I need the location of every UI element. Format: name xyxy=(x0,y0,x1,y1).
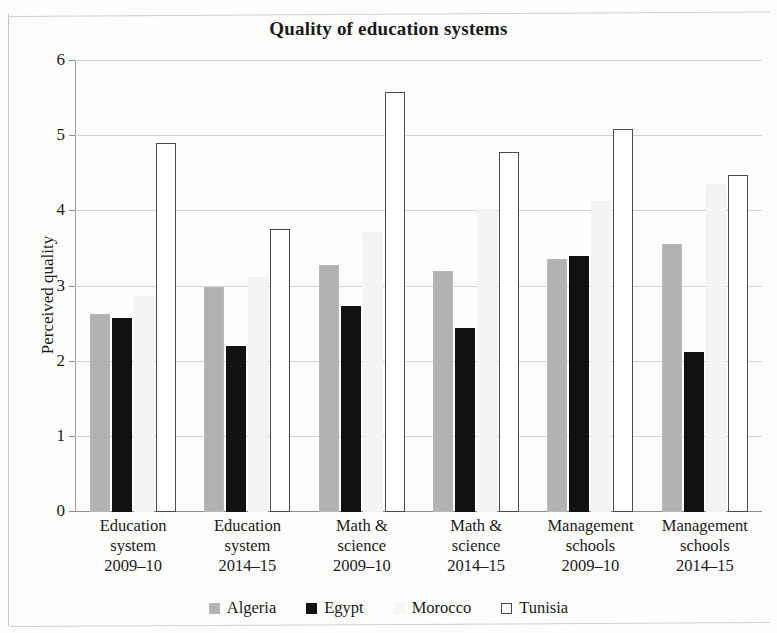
bar-algeria[interactable] xyxy=(90,314,110,512)
y-tick-label: 5 xyxy=(41,126,65,143)
y-tick-label: 4 xyxy=(41,201,65,218)
plot-area: 6543210 xyxy=(75,60,762,511)
legend-label: Morocco xyxy=(412,598,472,618)
x-category-label: Managementschools2009–10 xyxy=(533,516,647,576)
y-tick-1 xyxy=(69,436,75,437)
bar-group xyxy=(419,60,533,512)
x-category-label-line: schools xyxy=(533,536,647,556)
x-category-label-line: 2014–15 xyxy=(190,556,304,576)
y-tick-label: 6 xyxy=(41,51,65,68)
bar-morocco[interactable] xyxy=(591,201,611,512)
x-category-label-line: schools xyxy=(648,536,762,556)
page-edge-left xyxy=(8,14,9,626)
y-tick-label: 0 xyxy=(41,502,65,519)
x-category-label-line: 2014–15 xyxy=(648,556,762,576)
bar-group xyxy=(533,60,647,512)
x-category-label-line: Math & xyxy=(305,516,419,536)
legend-swatch-icon-algeria xyxy=(209,603,220,614)
bar-group xyxy=(648,60,762,512)
bar-algeria[interactable] xyxy=(547,259,567,512)
legend-swatch-icon-morocco xyxy=(394,603,405,614)
bar-group xyxy=(190,60,304,512)
bar-egypt[interactable] xyxy=(341,306,361,512)
x-category-label-line: 2009–10 xyxy=(533,556,647,576)
bar-egypt[interactable] xyxy=(226,346,246,512)
x-category-label-line: Management xyxy=(533,516,647,536)
legend-item-morocco[interactable]: Morocco xyxy=(394,598,472,618)
x-category-label-line: Management xyxy=(648,516,762,536)
bar-tunisia[interactable] xyxy=(728,175,748,512)
bar-group xyxy=(76,60,190,512)
y-tick-label: 2 xyxy=(41,352,65,369)
bar-egypt[interactable] xyxy=(455,328,475,512)
bar-algeria[interactable] xyxy=(204,287,224,512)
legend-item-tunisia[interactable]: Tunisia xyxy=(501,598,568,618)
bar-tunisia[interactable] xyxy=(156,143,176,512)
bar-groups xyxy=(76,60,762,512)
bar-egypt[interactable] xyxy=(112,318,132,512)
x-category-label: Math &science2014–15 xyxy=(419,516,533,576)
legend-label: Algeria xyxy=(227,598,276,618)
legend-swatch-icon-egypt xyxy=(306,603,317,614)
x-axis-category-labels: Educationsystem2009–10Educationsystem201… xyxy=(76,516,762,576)
x-category-label-line: science xyxy=(305,536,419,556)
legend-label: Egypt xyxy=(324,598,363,618)
page-edge-top xyxy=(8,11,770,17)
legend-swatch-icon-tunisia xyxy=(501,603,512,614)
x-category-label-line: system xyxy=(76,536,190,556)
x-category-label-line: 2009–10 xyxy=(305,556,419,576)
bar-morocco[interactable] xyxy=(706,184,726,512)
bar-tunisia[interactable] xyxy=(270,229,290,512)
bar-algeria[interactable] xyxy=(433,271,453,512)
y-tick-label: 3 xyxy=(41,277,65,294)
x-category-label-line: Education xyxy=(190,516,304,536)
x-category-label-line: 2009–10 xyxy=(76,556,190,576)
chart-legend: AlgeriaEgyptMoroccoTunisia xyxy=(0,598,777,618)
page-edge-bottom xyxy=(10,622,770,627)
x-category-label-line: Education xyxy=(76,516,190,536)
y-tick-4 xyxy=(69,210,75,211)
bar-tunisia[interactable] xyxy=(385,92,405,512)
bar-egypt[interactable] xyxy=(684,352,704,512)
chart-title: Quality of education systems xyxy=(0,18,777,40)
y-tick-0 xyxy=(69,511,75,512)
x-category-label: Educationsystem2009–10 xyxy=(76,516,190,576)
y-tick-label: 1 xyxy=(41,427,65,444)
bar-morocco[interactable] xyxy=(477,209,497,512)
x-category-label-line: science xyxy=(419,536,533,556)
bar-algeria[interactable] xyxy=(319,265,339,512)
chart-page: Quality of education systems Perceived q… xyxy=(0,0,777,633)
bar-morocco[interactable] xyxy=(248,277,268,512)
legend-item-egypt[interactable]: Egypt xyxy=(306,598,363,618)
bar-morocco[interactable] xyxy=(134,296,154,512)
y-tick-3 xyxy=(69,286,75,287)
bar-group xyxy=(305,60,419,512)
x-category-label: Managementschools2014–15 xyxy=(648,516,762,576)
x-category-label: Math &science2009–10 xyxy=(305,516,419,576)
bar-morocco[interactable] xyxy=(363,232,383,512)
y-tick-2 xyxy=(69,361,75,362)
x-category-label-line: 2014–15 xyxy=(419,556,533,576)
x-category-label-line: Math & xyxy=(419,516,533,536)
x-category-label-line: system xyxy=(190,536,304,556)
bar-egypt[interactable] xyxy=(569,256,589,512)
x-category-label: Educationsystem2014–15 xyxy=(190,516,304,576)
y-tick-5 xyxy=(69,135,75,136)
y-tick-6 xyxy=(69,60,75,61)
bar-algeria[interactable] xyxy=(662,244,682,512)
bar-tunisia[interactable] xyxy=(499,152,519,512)
legend-label: Tunisia xyxy=(519,598,568,618)
legend-item-algeria[interactable]: Algeria xyxy=(209,598,276,618)
bar-tunisia[interactable] xyxy=(613,129,633,512)
